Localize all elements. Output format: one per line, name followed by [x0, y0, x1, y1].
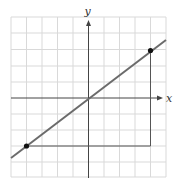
y-axis-label: y — [84, 5, 92, 18]
y-axis-arrow-icon — [86, 20, 91, 26]
coordinate-plane: x y — [0, 0, 177, 187]
x-axis-arrow-icon — [157, 96, 163, 101]
point-lower-left — [24, 143, 29, 148]
x-axis-label: x — [166, 92, 173, 105]
point-upper-right — [148, 48, 153, 53]
